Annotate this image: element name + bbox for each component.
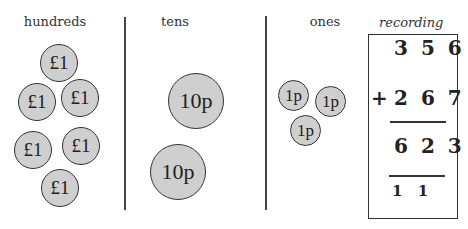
sum: 6 2 3 (394, 134, 465, 158)
pound-coin: £1 (61, 79, 99, 117)
one-penny-coin: 1p (315, 86, 346, 117)
pound-coin: £1 (40, 44, 78, 82)
ones-header: ones (295, 14, 355, 29)
sum-rule (390, 121, 446, 123)
carry-digits: 1 1 (392, 182, 433, 200)
pound-coin: £1 (41, 169, 79, 207)
divider-tens-ones (265, 16, 267, 210)
one-penny-coin: 1p (290, 115, 321, 146)
addend-1: 3 5 6 (394, 36, 465, 60)
addend-2: 2 6 7 (394, 86, 465, 110)
pound-coin: £1 (18, 83, 56, 121)
pound-coin: £1 (14, 131, 52, 169)
recording-title: recording (379, 15, 443, 30)
ten-pence-coin: 10p (168, 73, 224, 129)
hundreds-header: hundreds (10, 14, 100, 29)
divider-hundreds-tens (124, 17, 126, 210)
tens-header: tens (145, 14, 205, 29)
carry-rule (389, 175, 445, 177)
plus-operator: + (371, 86, 391, 110)
ten-pence-coin: 10p (150, 144, 206, 200)
one-penny-coin: 1p (278, 80, 309, 111)
pound-coin: £1 (62, 127, 100, 165)
